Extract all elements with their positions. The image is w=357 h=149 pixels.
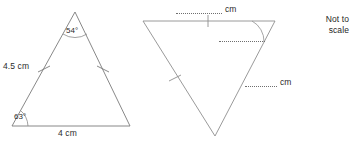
left-triangle-base-label: 4 cm [58, 129, 77, 139]
interior-angle-blank-line[interactable] [219, 34, 265, 42]
not-to-scale-line-1: Not to [326, 14, 349, 25]
not-to-scale-note: Not to scale [326, 14, 349, 36]
top-side-blank-line[interactable] [176, 6, 222, 14]
top-side-unit-label: cm [225, 5, 237, 15]
left-triangle-base-angle-label: 63° [14, 112, 26, 121]
right-side-blank-line[interactable] [245, 79, 277, 87]
left-triangle-tick-marks [38, 66, 109, 72]
left-triangle-apex-angle-label: 54° [66, 26, 78, 35]
triangles-svg [0, 0, 357, 149]
tick-left-side [38, 66, 50, 72]
right-side-unit-label: cm [280, 78, 292, 88]
left-triangle-left-side-label: 4.5 cm [3, 62, 29, 72]
diagram-canvas: 54° 63° 4.5 cm 4 cm cm cm Not to scale [0, 0, 357, 149]
not-to-scale-line-2: scale [326, 25, 349, 36]
tick-right-side [97, 66, 109, 72]
left-triangle-angle-arcs [20, 34, 87, 126]
right-triangle-top-side-answer[interactable]: cm [176, 5, 237, 15]
right-triangle-angle-answer[interactable] [219, 33, 265, 43]
right-triangle-right-side-answer[interactable]: cm [245, 78, 292, 88]
